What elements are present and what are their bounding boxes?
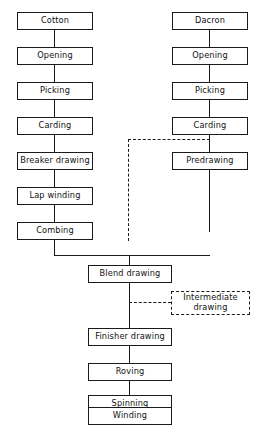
connector-cotton-carding-to-breaker-drawing (54, 135, 55, 152)
node-cotton-picking: Picking (17, 82, 93, 100)
dashed-bypass-vertical (128, 139, 129, 241)
connector-merge-to-blend-drawing (129, 255, 130, 265)
node-roving: Roving (88, 363, 172, 381)
connector-cotton-opening-to-picking (54, 65, 55, 82)
node-lap-winding: Lap winding (17, 187, 93, 205)
connector-dacron-carding-to-predrawing (209, 135, 210, 152)
connector-cotton-picking-to-carding (54, 100, 55, 117)
connector-combing-to-merge (54, 240, 55, 255)
connector-dacron-opening-to-picking (209, 65, 210, 82)
connector-blend-drawing-to-finisher-drawing (129, 283, 130, 328)
node-cotton-opening: Opening (17, 47, 93, 65)
connector-finisher-drawing-to-roving (129, 346, 130, 363)
dashed-connector-to-intermediate-drawing (129, 302, 171, 303)
node-cotton-carding: Carding (17, 117, 93, 135)
node-predrawing: Predrawing (172, 152, 248, 170)
node-cotton: Cotton (17, 12, 93, 30)
merge-bus-horizontal (54, 255, 210, 256)
connector-dacron-picking-to-carding (209, 100, 210, 117)
node-dacron: Dacron (172, 12, 248, 30)
connector-breaker-drawing-to-lap-winding (54, 170, 55, 187)
dashed-bypass-horizontal-carding (128, 139, 210, 140)
node-breaker-drawing: Breaker drawing (17, 152, 93, 170)
connector-dacron-to-opening (209, 30, 210, 47)
connector-cotton-to-opening (54, 30, 55, 47)
node-finisher-drawing: Finisher drawing (88, 328, 172, 346)
connector-predrawing-to-merge (209, 170, 210, 232)
connector-roving-to-spinning (129, 381, 130, 395)
node-intermediate-drawing: Intermediate drawing (171, 291, 250, 315)
connector-lap-winding-to-combing (54, 205, 55, 222)
node-blend-drawing: Blend drawing (88, 265, 172, 283)
node-combing: Combing (17, 222, 93, 240)
node-winding: Winding (88, 407, 172, 425)
node-dacron-carding: Carding (172, 117, 248, 135)
node-dacron-opening: Opening (172, 47, 248, 65)
process-flowchart: Cotton Opening Picking Carding Breaker d… (0, 0, 262, 431)
node-dacron-picking: Picking (172, 82, 248, 100)
